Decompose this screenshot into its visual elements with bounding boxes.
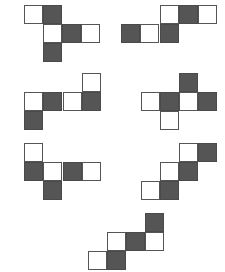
shaded-square: [145, 213, 164, 232]
shaded-square: [107, 251, 126, 270]
white-square: [145, 232, 164, 251]
shaded-square: [126, 232, 145, 251]
white-square: [107, 232, 126, 251]
net-7: [0, 0, 225, 272]
white-square: [88, 251, 107, 270]
